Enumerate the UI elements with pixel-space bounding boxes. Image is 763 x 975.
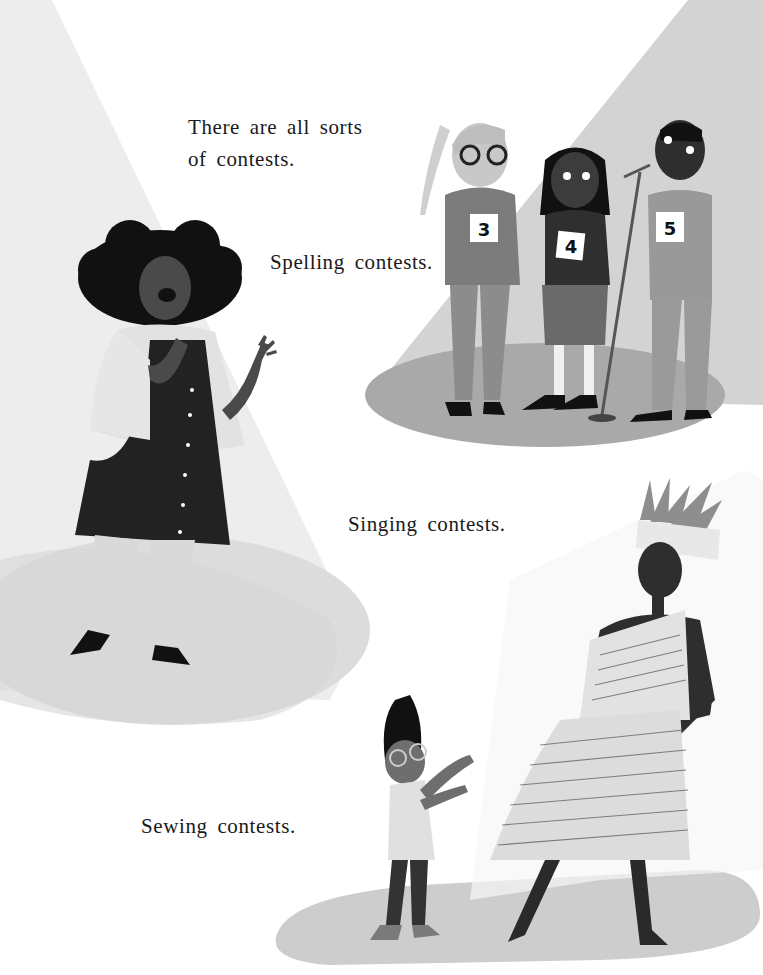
intro-text-line-2: of contests. — [188, 144, 295, 175]
spelling-scene: 3 4 — [365, 0, 763, 447]
singer-face — [139, 256, 191, 320]
intro-text-line-1: There are all sorts — [188, 112, 362, 143]
sewing-scene — [276, 470, 763, 965]
sewing-caption: Sewing contests. — [141, 811, 296, 842]
spelling-caption: Spelling contests. — [270, 247, 433, 278]
book-page: 3 4 — [0, 0, 763, 975]
contestant-number-3: 3 — [478, 219, 491, 240]
contestant-number-5: 5 — [664, 218, 677, 239]
singing-scene — [0, 0, 370, 725]
illustration: 3 4 — [0, 0, 763, 975]
singing-caption: Singing contests. — [348, 509, 506, 540]
contestant-number-4: 4 — [565, 236, 578, 257]
